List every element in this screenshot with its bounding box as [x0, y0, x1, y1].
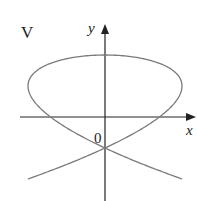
x-axis-label: x: [186, 122, 193, 139]
y-axis-arrow-icon: [101, 24, 109, 34]
y-axis-label: y: [88, 20, 95, 37]
origin-label: 0: [94, 130, 102, 147]
x-axis-arrow-icon: [186, 113, 196, 121]
panel-label: V: [21, 23, 33, 43]
